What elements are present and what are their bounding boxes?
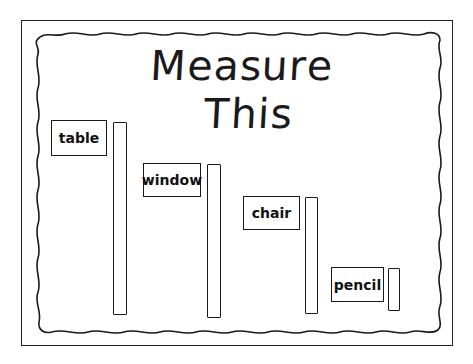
label-chair: chair (243, 196, 300, 230)
label-window: window (143, 163, 201, 197)
label-table-text: table (59, 130, 99, 146)
measure-bar-chair (305, 197, 318, 314)
label-pencil: pencil (331, 267, 384, 302)
measure-bar-table (113, 122, 127, 315)
label-chair-text: chair (252, 205, 291, 221)
measure-bar-window (207, 164, 221, 318)
label-window-text: window (142, 172, 202, 188)
label-pencil-text: pencil (334, 277, 381, 293)
label-table: table (51, 120, 107, 156)
measure-bar-pencil (388, 268, 400, 311)
worksheet-title: Measure This (113, 42, 376, 138)
